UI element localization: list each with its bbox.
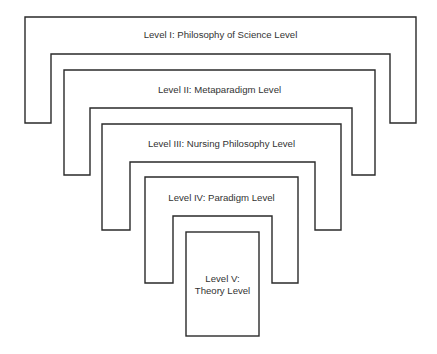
level-5-label-line1: Level V: <box>186 273 259 285</box>
level-3-label: Level III: Nursing Philosophy Level <box>102 138 341 150</box>
diagram-canvas <box>0 0 437 354</box>
level-5-label-line2: Theory Level <box>186 285 259 297</box>
level-2-label: Level II: Metaparadigm Level <box>64 84 375 96</box>
level-1-label: Level I: Philosophy of Science Level <box>25 29 416 41</box>
level-4-label: Level IV: Paradigm Level <box>145 192 298 204</box>
